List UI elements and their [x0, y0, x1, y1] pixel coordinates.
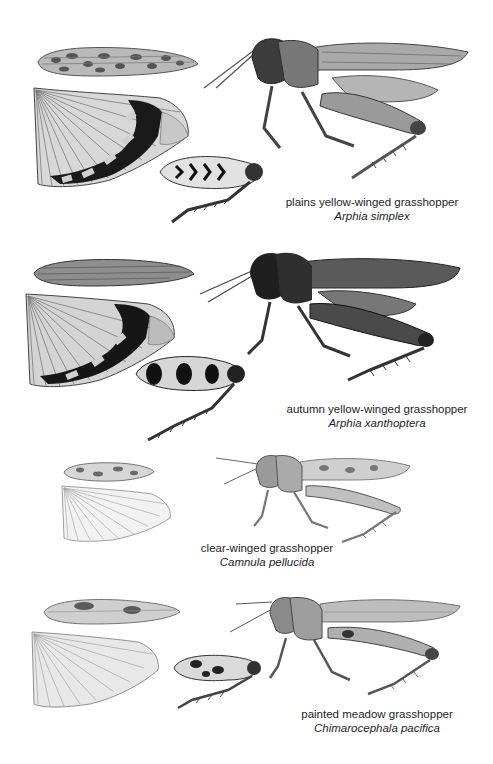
hindwing-icon [58, 482, 174, 544]
illustration-plate: plains yellow-winged grasshopper Arphia … [0, 0, 493, 764]
grasshopper-body-icon [202, 18, 472, 193]
common-name: clear-winged grasshopper [172, 541, 362, 555]
forewing-icon [62, 460, 156, 484]
forewing-icon [34, 44, 200, 80]
common-name: autumn yellow-winged grasshopper [262, 402, 492, 416]
grasshopper-body-icon [214, 450, 414, 550]
species-caption: clear-winged grasshopper Camnula pelluci… [172, 541, 362, 569]
hindwing-icon [28, 628, 162, 710]
species-caption: plains yellow-winged grasshopper Arphia … [262, 195, 482, 223]
grasshopper-body-icon [198, 244, 466, 394]
species-caption: autumn yellow-winged grasshopper Arphia … [262, 402, 492, 430]
common-name: plains yellow-winged grasshopper [262, 195, 482, 209]
grasshopper-body-icon [228, 592, 464, 704]
scientific-name: Arphia xanthoptera [262, 416, 492, 430]
scientific-name: Camnula pellucida [172, 555, 362, 569]
scientific-name: Chimarocephala pacifica [272, 721, 482, 735]
scientific-name: Arphia simplex [262, 209, 482, 223]
forewing-icon [40, 596, 182, 628]
species-caption: painted meadow grasshopper Chimarocephal… [272, 707, 482, 735]
forewing-icon [30, 256, 196, 290]
common-name: painted meadow grasshopper [272, 707, 482, 721]
